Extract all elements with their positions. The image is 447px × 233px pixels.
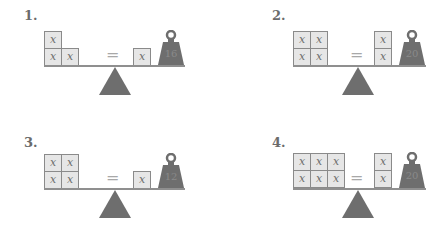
x-block: x <box>133 171 151 189</box>
x-block: x <box>61 154 79 172</box>
x-block: x <box>374 48 392 66</box>
problem-number: 1. <box>24 8 38 23</box>
x-block: x <box>374 170 392 188</box>
x-block: x <box>310 153 328 171</box>
weight-icon: 16 <box>157 30 185 65</box>
fulcrum-icon <box>342 190 374 218</box>
x-block: x <box>44 154 62 172</box>
x-block: x <box>61 171 79 189</box>
weight-icon: 20 <box>398 152 426 188</box>
x-block: x <box>293 170 311 188</box>
x-block: x <box>310 31 328 49</box>
x-block: x <box>44 48 62 66</box>
x-block: x <box>327 170 345 188</box>
weight-label: 20 <box>398 48 426 59</box>
x-block: x <box>327 153 345 171</box>
weight-icon: 12 <box>157 153 185 188</box>
problem-number: 3. <box>24 135 38 150</box>
weight-label: 20 <box>398 170 426 181</box>
x-block: x <box>44 31 62 49</box>
fulcrum-icon <box>99 190 131 218</box>
fulcrum-icon <box>99 67 131 95</box>
fulcrum-icon <box>342 67 374 95</box>
weight-icon: 20 <box>398 30 426 65</box>
problem-number: 4. <box>272 135 286 150</box>
x-block: x <box>310 170 328 188</box>
equals-sign: = <box>106 170 119 186</box>
x-block: x <box>374 31 392 49</box>
weight-label: 12 <box>157 171 185 182</box>
x-block: x <box>293 153 311 171</box>
problem-number: 2. <box>272 8 286 23</box>
weight-label: 16 <box>157 48 185 59</box>
x-block: x <box>293 48 311 66</box>
equals-sign: = <box>350 47 363 63</box>
x-block: x <box>44 171 62 189</box>
equals-sign: = <box>350 170 363 186</box>
x-block: x <box>133 48 151 66</box>
x-block: x <box>310 48 328 66</box>
x-block: x <box>293 31 311 49</box>
x-block: x <box>374 153 392 171</box>
equals-sign: = <box>106 47 119 63</box>
x-block: x <box>61 48 79 66</box>
